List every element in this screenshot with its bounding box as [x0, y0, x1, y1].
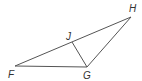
label-f: F [8, 69, 15, 80]
triangle-diagram: F G H J [0, 0, 142, 81]
segment-fg [15, 66, 87, 67]
label-j: J [65, 31, 72, 42]
segment-gh [87, 17, 131, 67]
segments [15, 17, 131, 67]
segment-fh [15, 17, 131, 66]
label-h: H [129, 3, 137, 14]
label-g: G [83, 70, 91, 81]
segment-jg [72, 42, 87, 67]
